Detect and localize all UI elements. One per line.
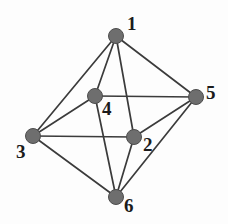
graph-node-4 — [88, 89, 103, 104]
graph-canvas — [0, 0, 228, 224]
graph-node-6 — [109, 190, 124, 205]
graph-node-label-4: 4 — [102, 99, 112, 118]
graph-edge-2-5 — [134, 97, 196, 137]
graph-node-label-5: 5 — [206, 83, 216, 102]
graph-node-label-3: 3 — [16, 142, 26, 161]
edge-layer — [33, 36, 196, 197]
graph-edge-2-6 — [116, 137, 134, 197]
graph-node-label-6: 6 — [124, 196, 134, 215]
graph-edge-3-4 — [33, 96, 95, 136]
graph-node-label-2: 2 — [143, 135, 153, 154]
graph-edge-1-3 — [33, 36, 116, 136]
graph-diagram: 123456 — [0, 0, 228, 224]
graph-node-5 — [189, 90, 204, 105]
graph-edge-3-6 — [33, 136, 116, 197]
graph-edge-1-5 — [116, 36, 196, 97]
graph-edge-4-5 — [95, 96, 196, 97]
graph-node-3 — [26, 129, 41, 144]
node-layer — [26, 29, 204, 205]
graph-edge-5-6 — [116, 97, 196, 197]
graph-node-2 — [127, 130, 142, 145]
graph-node-1 — [109, 29, 124, 44]
graph-edge-1-2 — [116, 36, 134, 137]
graph-edge-1-4 — [95, 36, 116, 96]
graph-edge-2-3 — [33, 136, 134, 137]
graph-node-label-1: 1 — [127, 14, 137, 33]
